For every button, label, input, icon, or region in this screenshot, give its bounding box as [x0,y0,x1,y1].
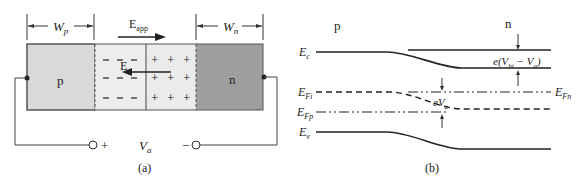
band-n-label: n [505,16,512,31]
eva-arrow-down-icon [440,86,444,91]
valence-band-edge [316,132,551,149]
eva-label: eVa [433,96,449,111]
wn-arrow-right-icon [256,24,262,28]
ev-label: Ev [298,125,310,141]
pn-junction-figure: Wp Wn Eapp p n +++ +++ ++ [0,0,581,180]
svg-text:+: + [167,90,174,105]
panel-b: p n Ec e(Vbi − Va) EFi EFn EFp eVa Ev (b… [296,16,571,175]
svg-text:+: + [151,52,158,67]
ec-label: Ec [298,45,310,61]
plus-sign: + [101,138,108,153]
eapp-arrow-icon [155,33,166,41]
efp-label: EFp [296,105,313,121]
eapp-label: Eapp [129,17,148,33]
wp-arrow-left-icon [28,24,34,28]
negative-terminal[interactable] [192,141,200,149]
svg-text:+: + [183,70,190,85]
panel-a: Wp Wn Eapp p n +++ +++ ++ [15,14,277,175]
efi-label: EFi [297,85,312,101]
va-label: Va [139,138,152,155]
depletion-negative [95,44,146,110]
band-p-label: p [334,18,341,33]
svg-text:+: + [167,52,174,67]
caption-a: (a) [138,161,151,175]
positive-charges: +++ +++ +++ [151,52,190,105]
p-label: p [57,73,64,88]
eva-arrow-up-icon [440,114,444,119]
barrier-arrow-up-icon [516,70,520,75]
svg-text:+: + [183,52,190,67]
n-label: n [229,72,236,87]
wp-arrow-right-icon [87,24,93,28]
efn-label: EFn [554,85,571,101]
wn-label: Wn [223,19,239,36]
positive-terminal[interactable] [89,141,97,149]
wn-arrow-left-icon [197,24,203,28]
svg-text:+: + [183,90,190,105]
minus-sign: − [182,138,189,153]
caption-b: (b) [425,161,439,175]
wp-label: Wp [53,19,69,36]
svg-text:+: + [151,90,158,105]
